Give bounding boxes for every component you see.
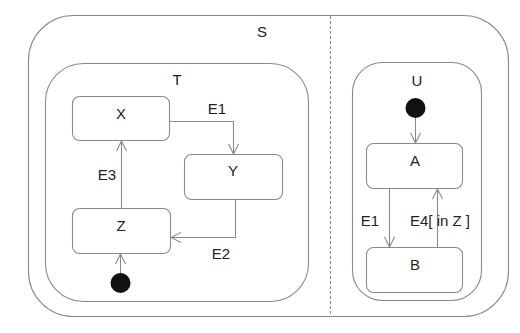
- initial-state-t-icon: [111, 273, 131, 293]
- initial-state-u-icon: [406, 98, 426, 118]
- state-t-box: [46, 64, 309, 302]
- state-diagram: [0, 0, 520, 333]
- state-t-label: T: [172, 72, 181, 87]
- state-a-label: A: [410, 153, 420, 168]
- transition-label-e1-xy: E1: [208, 101, 226, 116]
- state-u-label: U: [412, 73, 423, 88]
- state-z-label: Z: [116, 218, 125, 233]
- state-b-label: B: [410, 257, 420, 272]
- transition-x-y: [170, 122, 234, 155]
- transition-label-e4: E4[ in Z ]: [410, 213, 470, 228]
- transition-label-e2: E2: [212, 246, 230, 261]
- transition-label-e1-ab: E1: [361, 213, 379, 228]
- state-s-label: S: [257, 24, 267, 39]
- state-y-label: Y: [228, 163, 238, 178]
- transition-y-z: [171, 200, 236, 238]
- state-x-label: X: [116, 106, 126, 121]
- transition-label-e3: E3: [98, 167, 116, 182]
